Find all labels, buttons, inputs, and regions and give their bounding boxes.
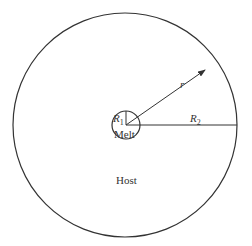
host-label: Host [116,174,137,186]
r1-label: R1 [112,112,124,127]
r-label: r [180,78,185,90]
melt-label: Melt [114,128,135,140]
melt-host-diagram: R1 Melt r R2 Host [0,0,252,246]
diagram-canvas: R1 Melt r R2 Host [0,0,252,246]
